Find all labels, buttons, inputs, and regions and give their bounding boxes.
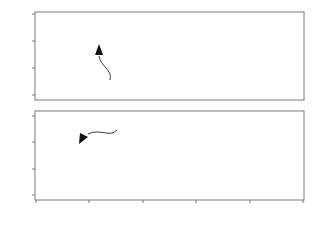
- arrowhead-icon: [95, 44, 103, 55]
- arrow-d05-bottom: [88, 130, 117, 134]
- chart-figure: [0, 0, 320, 246]
- axes-frame-bottom: [35, 111, 304, 200]
- axes-frame-top: [35, 12, 304, 100]
- panel-aa-het: [0, 0, 304, 203]
- arrow-d05-top: [99, 56, 110, 80]
- panel-aa: [0, 0, 304, 100]
- arrowhead-icon: [79, 133, 88, 144]
